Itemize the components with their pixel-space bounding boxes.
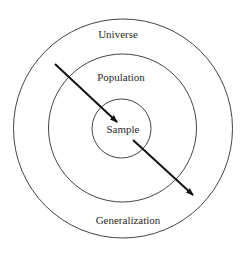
sampling-diagram: Universe Population Sample Generalizatio… — [0, 0, 241, 253]
universe-label: Universe — [98, 28, 138, 40]
diagram-canvas: Universe Population Sample Generalizatio… — [0, 0, 241, 253]
population-label: Population — [97, 71, 145, 83]
generalization-label: Generalization — [96, 214, 161, 226]
generalization-arrow-icon — [133, 140, 193, 195]
sample-label: Sample — [107, 123, 140, 135]
